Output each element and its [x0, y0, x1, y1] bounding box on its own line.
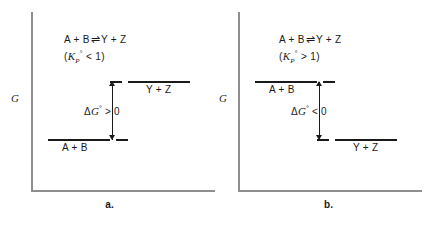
- panel-caption-b: b.: [219, 199, 438, 210]
- upper-level-label-a: Y + Z: [146, 84, 172, 95]
- delta-g-label-a: ΔG° > 0: [84, 105, 120, 117]
- kp-superscript-b: °: [295, 50, 298, 57]
- kp-close-paren-a: ): [101, 51, 105, 62]
- lower-level-dash-segment-a: [116, 139, 128, 141]
- kp-relation-b: > 1: [301, 51, 316, 62]
- x-axis-line-a: [31, 190, 215, 192]
- upper-level-dash-segment-b: [323, 81, 335, 83]
- kp-close-paren-b: ): [316, 51, 320, 62]
- delta-symbol-b: Δ: [291, 106, 298, 117]
- y-axis-line-a: [31, 12, 33, 192]
- kp-condition-a: (KP° < 1): [64, 47, 127, 68]
- y-axis-label-a: G: [11, 92, 19, 104]
- delta-g-label-b: ΔG° < 0: [291, 105, 327, 117]
- reaction-products-a: Y + Z: [101, 34, 127, 45]
- delta-g-superscript-a: °: [99, 105, 102, 112]
- equilibrium-arrow-icon-b: ⇌: [305, 33, 316, 45]
- reaction-caption-a: A + B⇌Y + Z (KP° < 1): [64, 33, 127, 68]
- kp-relation-a: < 1: [86, 51, 101, 62]
- upper-level-label-b: A + B: [269, 84, 295, 95]
- lower-level-line-b: [335, 139, 397, 141]
- delta-g-arrow-head-down-a: [109, 135, 115, 140]
- delta-g-arrow-head-up-a: [109, 81, 115, 86]
- delta-g-arrow-head-up-b: [316, 81, 322, 86]
- reaction-caption-b: A + B⇌Y + Z (KP° > 1): [279, 33, 342, 68]
- y-axis-label-b: G: [219, 92, 227, 104]
- reaction-reactants-a: A + B: [64, 34, 90, 45]
- kp-subscript-a: P: [75, 57, 80, 65]
- reaction-products-b: Y + Z: [316, 34, 342, 45]
- y-axis-line-b: [238, 12, 240, 192]
- delta-g-relation-b: < 0: [312, 106, 327, 117]
- panel-a: G A + B⇌Y + Z (KP° < 1) Y + Z A + B ΔG° …: [0, 0, 219, 225]
- reaction-reactants-b: A + B: [279, 34, 305, 45]
- gibbs-energy-figure: G A + B⇌Y + Z (KP° < 1) Y + Z A + B ΔG° …: [0, 0, 438, 225]
- panel-b: G A + B⇌Y + Z (KP° > 1) A + B Y + Z ΔG° …: [219, 0, 438, 225]
- delta-g-superscript-b: °: [306, 105, 309, 112]
- kp-condition-b: (KP° > 1): [279, 47, 342, 68]
- panel-caption-a: a.: [0, 199, 219, 210]
- delta-g-symbol-b: G: [298, 105, 306, 117]
- equilibrium-arrow-icon-a: ⇌: [90, 33, 101, 45]
- delta-g-relation-a: > 0: [105, 106, 120, 117]
- delta-g-arrow-head-down-b: [316, 135, 322, 140]
- kp-superscript-a: °: [80, 50, 83, 57]
- x-axis-line-b: [238, 190, 422, 192]
- upper-level-line-b: [255, 81, 317, 83]
- lower-level-label-b: Y + Z: [353, 142, 379, 153]
- delta-g-symbol-a: G: [91, 105, 99, 117]
- upper-level-line-a: [128, 81, 190, 83]
- kp-subscript-b: P: [290, 57, 295, 65]
- lower-level-line-a: [48, 139, 110, 141]
- delta-symbol-a: Δ: [84, 106, 91, 117]
- lower-level-label-a: A + B: [62, 142, 88, 153]
